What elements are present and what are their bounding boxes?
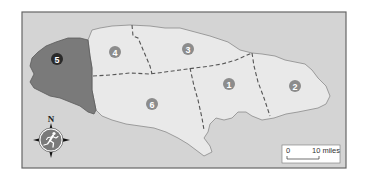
region-marker-1[interactable]: 1 xyxy=(223,78,235,90)
region-marker-4[interactable]: 4 xyxy=(109,46,121,58)
region-marker-6[interactable]: 6 xyxy=(146,98,158,110)
region-label-6: 6 xyxy=(149,100,154,110)
scale-start-label: 0 xyxy=(286,146,290,155)
region-label-4: 4 xyxy=(112,48,117,58)
scale-bar: 0 10 miles xyxy=(282,145,340,163)
scale-end-label: 10 miles xyxy=(312,146,340,155)
region-marker-2[interactable]: 2 xyxy=(289,80,301,92)
region-label-2: 2 xyxy=(292,82,297,92)
region-label-5: 5 xyxy=(54,55,59,65)
region-map: 1 2 3 4 5 6 N xyxy=(0,0,365,180)
region-label-1: 1 xyxy=(226,80,231,90)
region-label-3: 3 xyxy=(185,45,190,55)
region-marker-3[interactable]: 3 xyxy=(182,43,194,55)
north-label: N xyxy=(48,114,55,124)
region-marker-5[interactable]: 5 xyxy=(51,53,63,65)
